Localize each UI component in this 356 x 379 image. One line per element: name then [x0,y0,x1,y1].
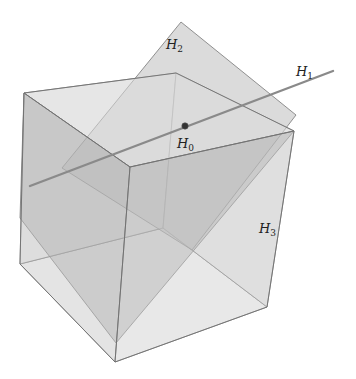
cube-hyperplane-diagram: H2 H1 H0 H3 [0,0,356,379]
label-h1: H1 [295,64,313,81]
cube-front-right-face [115,131,294,362]
cube-front [20,73,294,362]
point-h0 [182,123,188,129]
